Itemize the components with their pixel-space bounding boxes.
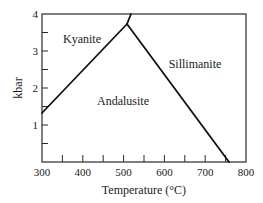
region-label-kyanite: Kyanite — [63, 32, 101, 46]
y-tick-label: 4 — [33, 8, 39, 20]
x-axis-title: Temperature (°C) — [102, 183, 186, 197]
x-tick-labels: 300 400 500 600 700 800 — [34, 166, 255, 178]
x-tick-label: 600 — [156, 166, 173, 178]
y-axis-ticks — [42, 33, 48, 144]
region-label-andalusite: Andalusite — [97, 94, 149, 108]
phase-diagram-chart: 1 2 3 4 300 400 500 600 700 800 Temperat… — [0, 0, 263, 203]
y-tick-labels: 1 2 3 4 — [33, 8, 39, 131]
y-tick-label: 3 — [33, 45, 39, 57]
x-tick-label: 300 — [34, 166, 51, 178]
y-axis-title: kbar — [11, 77, 25, 98]
x-tick-label: 700 — [197, 166, 214, 178]
kyanite-sillimanite-boundary — [127, 14, 131, 24]
y-tick-label: 2 — [33, 82, 39, 94]
x-tick-label: 800 — [238, 166, 255, 178]
y-tick-label: 1 — [33, 119, 39, 131]
x-tick-label: 500 — [115, 166, 132, 178]
x-tick-label: 400 — [75, 166, 92, 178]
region-label-sillimanite: Sillimanite — [169, 57, 222, 71]
andalusite-sillimanite-boundary — [127, 24, 229, 162]
x-axis-ticks — [62, 155, 225, 162]
